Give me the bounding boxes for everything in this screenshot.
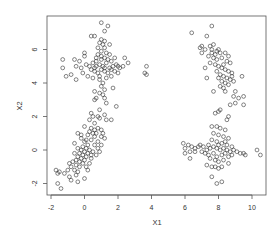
x-tick-label: 2	[116, 204, 120, 211]
data-point	[94, 153, 98, 157]
data-point	[217, 143, 221, 147]
data-point	[210, 138, 214, 142]
data-point	[213, 53, 217, 57]
data-point	[228, 61, 232, 65]
data-point	[81, 71, 85, 75]
data-point	[99, 84, 103, 88]
data-point	[227, 162, 231, 166]
data-point	[188, 150, 192, 154]
plot-frame	[47, 16, 266, 195]
data-point	[103, 88, 107, 92]
data-point	[188, 157, 192, 161]
data-point	[104, 118, 108, 122]
data-point	[212, 151, 216, 155]
data-point	[215, 69, 219, 73]
data-point	[205, 163, 209, 167]
data-point	[93, 90, 97, 94]
data-point	[227, 83, 231, 87]
data-point	[208, 157, 212, 161]
data-point	[218, 126, 222, 130]
data-point	[203, 66, 207, 70]
data-point	[242, 103, 246, 107]
data-point	[108, 53, 112, 57]
data-point	[121, 64, 125, 68]
data-point	[106, 24, 110, 28]
data-point	[104, 76, 108, 80]
data-point	[232, 95, 236, 99]
data-point	[76, 180, 80, 184]
data-point	[181, 141, 185, 145]
y-axis: -20246	[31, 47, 47, 186]
data-point	[205, 76, 209, 80]
data-point	[104, 101, 108, 105]
y-tick-label: 2	[31, 114, 38, 118]
data-point	[217, 160, 221, 164]
data-point	[79, 66, 83, 70]
data-point	[230, 153, 234, 157]
data-point	[61, 58, 65, 62]
data-point	[233, 101, 237, 105]
data-point	[73, 141, 77, 145]
data-point	[220, 180, 224, 184]
data-point	[200, 51, 204, 55]
data-point	[217, 133, 221, 137]
data-point	[103, 46, 107, 50]
data-point	[93, 135, 97, 139]
data-point	[91, 76, 95, 80]
data-point	[203, 48, 207, 52]
data-point	[183, 146, 187, 150]
data-point	[123, 56, 127, 60]
data-point	[217, 76, 221, 80]
data-point	[74, 78, 78, 82]
x-tick-label: 0	[83, 204, 87, 211]
x-axis-title: X1	[152, 218, 161, 227]
data-point	[114, 105, 118, 109]
data-point	[98, 150, 102, 154]
data-points	[54, 21, 262, 191]
data-point	[223, 51, 227, 55]
data-point	[240, 74, 244, 78]
data-point	[99, 49, 103, 53]
data-point	[103, 113, 107, 117]
data-point	[202, 145, 206, 149]
data-point	[78, 165, 82, 169]
data-point	[91, 115, 95, 119]
data-point	[61, 66, 65, 70]
data-point	[89, 138, 93, 142]
data-point	[109, 59, 113, 63]
data-point	[63, 172, 67, 176]
data-point	[88, 162, 92, 166]
data-point	[190, 31, 194, 35]
data-point	[96, 140, 100, 144]
data-point	[88, 118, 92, 122]
data-point	[227, 136, 231, 140]
data-point	[228, 103, 232, 107]
data-point	[223, 128, 227, 132]
data-point	[56, 182, 60, 186]
data-point	[210, 24, 214, 28]
data-point	[74, 173, 78, 177]
data-point	[220, 56, 224, 60]
data-point	[73, 151, 77, 155]
data-point	[96, 46, 100, 50]
data-point	[86, 168, 90, 172]
data-point	[93, 121, 97, 125]
data-point	[86, 74, 90, 78]
data-point	[59, 187, 63, 191]
data-point	[103, 136, 107, 140]
data-point	[225, 118, 229, 122]
y-tick-label: 6	[31, 47, 38, 51]
data-point	[222, 158, 226, 162]
data-point	[223, 140, 227, 144]
scatter-chart: -20246810 -20246 X1 X2	[0, 0, 279, 237]
data-point	[73, 58, 77, 62]
data-point	[222, 63, 226, 67]
data-point	[210, 125, 214, 129]
data-point	[237, 96, 241, 100]
x-tick-label: 10	[248, 204, 256, 211]
data-point	[109, 118, 113, 122]
data-point	[83, 177, 87, 181]
data-point	[76, 146, 80, 150]
data-point	[106, 71, 110, 75]
data-point	[183, 151, 187, 155]
